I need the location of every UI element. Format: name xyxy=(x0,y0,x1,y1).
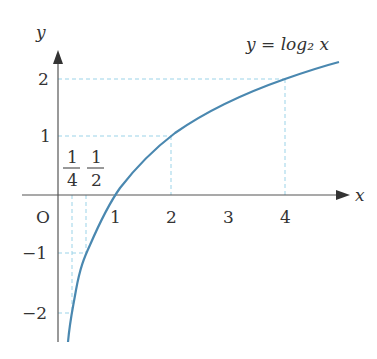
y-tick-1: 1 xyxy=(40,126,51,146)
log-graph: y x O 1 2 3 4 2 1 −1 −2 1 4 1 2 y = log₂… xyxy=(0,0,377,359)
y-tick-neg1: −1 xyxy=(22,243,47,263)
svg-text:1: 1 xyxy=(91,147,102,167)
fraction-quarter: 1 4 xyxy=(63,147,80,190)
x-tick-3: 3 xyxy=(223,207,234,227)
x-axis-arrow-icon xyxy=(336,190,350,200)
x-tick-2: 2 xyxy=(166,207,177,227)
x-axis-label: x xyxy=(355,185,365,205)
y-tick-2: 2 xyxy=(38,69,49,89)
axes xyxy=(22,58,342,342)
y-axis-arrow-icon xyxy=(53,50,63,64)
y-tick-neg2: −2 xyxy=(22,303,47,323)
fraction-half: 1 2 xyxy=(87,147,104,190)
function-label: y = log₂ x xyxy=(245,34,329,54)
log-curve xyxy=(68,62,339,342)
svg-text:2: 2 xyxy=(91,170,102,190)
svg-text:4: 4 xyxy=(67,170,78,190)
y-axis-label: y xyxy=(35,22,46,42)
origin-label: O xyxy=(36,207,50,227)
svg-text:1: 1 xyxy=(67,147,78,167)
x-tick-1: 1 xyxy=(110,207,121,227)
guide-lines xyxy=(58,79,285,313)
x-tick-4: 4 xyxy=(280,207,291,227)
